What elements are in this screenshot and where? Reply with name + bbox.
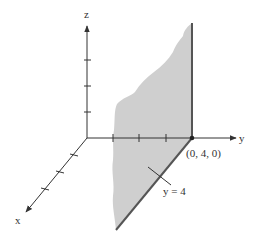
point-label: (0, 4, 0) [186, 147, 221, 160]
plane-y-equals-4 [112, 23, 192, 230]
x-axis [26, 138, 87, 212]
z-axis-label: z [84, 8, 89, 20]
y-axis-label: y [239, 132, 245, 144]
x-axis-label: x [15, 214, 21, 226]
plane-diagram: z y x (0, 4, 0) y = 4 [0, 0, 253, 246]
point-0-4-0 [190, 136, 195, 141]
plane-label: y = 4 [163, 185, 186, 197]
